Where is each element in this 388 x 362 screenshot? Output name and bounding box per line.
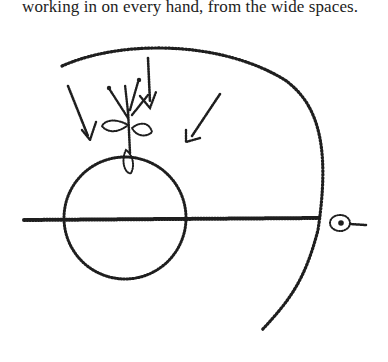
outer-arc <box>62 48 323 330</box>
eye-icon <box>330 215 366 231</box>
arrow-left <box>68 86 96 140</box>
arrow-center <box>140 58 156 108</box>
arrow-right <box>186 94 220 142</box>
horizontal-line <box>24 218 320 220</box>
sketch-figure <box>0 0 388 362</box>
